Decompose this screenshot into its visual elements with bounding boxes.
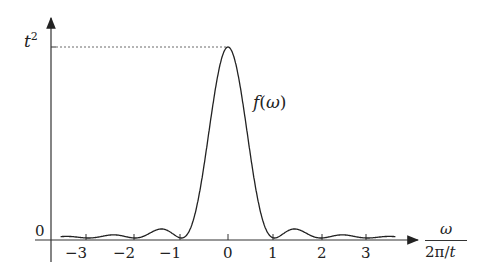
- x-label-denominator: 2π/t: [425, 243, 456, 261]
- x-tick-neg1: −1: [159, 244, 181, 262]
- x-tick-neg3: −3: [65, 244, 87, 262]
- chart: t2 0 f(ω) −3 −2 −1 0 1 2 3 ω 2π/t: [0, 0, 492, 280]
- curve-label: f(ω): [253, 92, 286, 112]
- x-tick-neg2: −2: [113, 244, 135, 262]
- x-label-numerator: ω: [440, 220, 452, 238]
- y-tick-t-squared: t2: [24, 30, 38, 51]
- x-tick-0: 0: [223, 244, 233, 262]
- sinc-squared-curve: [61, 47, 396, 238]
- x-tick-3: 3: [361, 244, 371, 262]
- x-tick-1: 1: [268, 244, 278, 262]
- x-label-fraction-bar: [425, 240, 467, 241]
- x-tick-2: 2: [317, 244, 327, 262]
- chart-plot: [0, 0, 492, 280]
- y-tick-zero: 0: [35, 222, 45, 240]
